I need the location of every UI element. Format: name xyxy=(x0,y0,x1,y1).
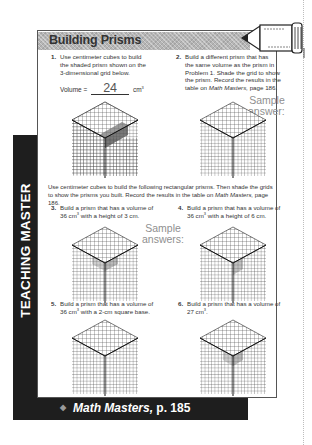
sample-answers-label: Sample answers: xyxy=(142,223,184,245)
footer-page: p. 185 xyxy=(153,401,190,415)
problem-number: 2. xyxy=(176,53,181,61)
problem-number: 6. xyxy=(178,300,183,308)
problem-text-line: Use centimeter cubes to build xyxy=(60,53,160,61)
problem-number: 3. xyxy=(51,204,56,212)
volume-answer: 24 xyxy=(91,83,129,95)
isometric-grid-problem-1 xyxy=(70,100,140,180)
problem-number: 1. xyxy=(51,53,56,61)
page-title: Building Prisms xyxy=(49,33,141,47)
volume-label: Volume = xyxy=(60,86,87,93)
problem-5: 5. Build a prism that has a volume of 36… xyxy=(60,300,160,316)
isometric-grid-problem-2 xyxy=(198,100,268,180)
footer-reference: ◆Math Masters, p. 185 xyxy=(60,401,190,415)
problem-text-line: the shaded prism shown on the xyxy=(60,61,160,69)
volume-unit: cm xyxy=(133,86,142,93)
book-title: Math Masters, xyxy=(215,192,253,198)
pencil-icon xyxy=(240,18,308,58)
side-label-text: TEACHING MASTER xyxy=(18,183,33,317)
problem-text-line: 3-dimensional grid below. xyxy=(60,69,160,77)
problem-4: 4. Build a prism that has a volume of 36… xyxy=(187,204,287,220)
problem-number: 5. xyxy=(51,300,56,308)
problem-number: 4. xyxy=(178,204,183,212)
page-edge-dotted-line xyxy=(303,0,304,445)
problem-1: 1. Use centimeter cubes to build the sha… xyxy=(60,53,160,76)
problem-text-line: the prism. Record the results in the xyxy=(185,76,285,84)
problem-text-line: Problem 1. Shade the grid to show xyxy=(185,69,285,77)
isometric-grid-problem-6 xyxy=(198,318,268,398)
problem-text-line: the same volume as the prism in xyxy=(185,61,285,69)
footer-book-title: Math Masters, xyxy=(73,401,153,415)
problem-2: 2. Build a different prism that has the … xyxy=(185,53,285,92)
problem-text-line: Build a different prism that has xyxy=(185,53,285,61)
book-title: Math Masters, xyxy=(209,84,248,91)
diamond-bullet-icon: ◆ xyxy=(60,403,66,412)
isometric-grid-problem-5 xyxy=(70,318,140,398)
isometric-grid-problem-4 xyxy=(198,225,268,305)
isometric-grid-problem-3 xyxy=(70,225,140,305)
side-label: TEACHING MASTER xyxy=(13,135,38,365)
volume-unit-exponent: 3 xyxy=(142,85,144,90)
problem-3: 3. Build a prism that has a volume of 36… xyxy=(60,204,160,220)
volume-line: Volume = 24 cm3 xyxy=(60,83,144,95)
problem-text-line: table on Math Masters, page 186. xyxy=(185,84,285,92)
problem-6: 6. Build a prism that has a volume of 27… xyxy=(187,300,287,316)
